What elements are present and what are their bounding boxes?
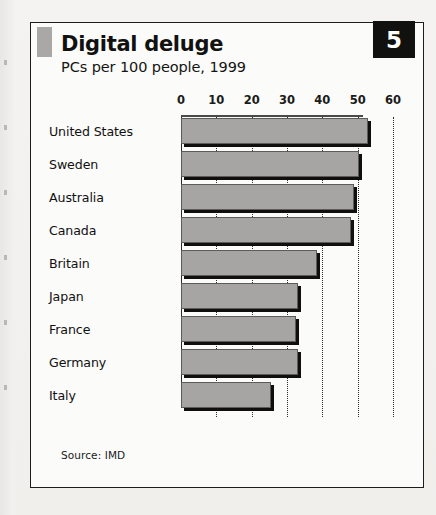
bar-row: Canada bbox=[31, 216, 425, 246]
x-tick-label: 50 bbox=[350, 93, 366, 107]
bar-category-label: Germany bbox=[49, 355, 106, 370]
bar-row: Britain bbox=[31, 249, 425, 279]
bar-row: Japan bbox=[31, 282, 425, 312]
bar-category-label: Canada bbox=[49, 223, 96, 238]
x-tick-label: 40 bbox=[314, 93, 330, 107]
bar-category-label: Britain bbox=[49, 256, 90, 271]
chart-source: Source: IMD bbox=[61, 449, 125, 461]
bar-category-label: Japan bbox=[49, 289, 84, 304]
edge-mark bbox=[4, 255, 7, 260]
edge-mark bbox=[4, 60, 7, 65]
bar-row: Germany bbox=[31, 348, 425, 378]
edge-mark bbox=[4, 125, 7, 130]
bar bbox=[181, 382, 271, 408]
bar-row: United States bbox=[31, 117, 425, 147]
bar bbox=[181, 283, 298, 309]
bar bbox=[181, 118, 368, 144]
bar bbox=[181, 250, 317, 276]
edge-mark bbox=[4, 320, 7, 325]
edge-mark bbox=[4, 190, 7, 195]
x-tick-label: 20 bbox=[244, 93, 260, 107]
bar-rows: United StatesSwedenAustraliaCanadaBritai… bbox=[31, 117, 425, 414]
bar bbox=[181, 349, 298, 375]
x-tick-label: 0 bbox=[177, 93, 185, 107]
bar-row: France bbox=[31, 315, 425, 345]
x-axis-tick-labels: 0102030405060 bbox=[31, 93, 425, 113]
bar-category-label: United States bbox=[49, 124, 133, 139]
x-tick-label: 30 bbox=[279, 93, 295, 107]
chart-title: Digital deluge bbox=[61, 32, 223, 56]
bar-row: Australia bbox=[31, 183, 425, 213]
bar bbox=[181, 151, 359, 177]
bar-category-label: Sweden bbox=[49, 157, 98, 172]
chart-subtitle: PCs per 100 people, 1999 bbox=[61, 59, 246, 75]
page-edge-marks bbox=[4, 60, 8, 490]
plot-area: 0102030405060 United StatesSwedenAustral… bbox=[31, 93, 425, 443]
bar bbox=[181, 316, 296, 342]
x-tick-label: 10 bbox=[208, 93, 224, 107]
accent-block bbox=[37, 27, 52, 57]
chart-number-badge: 5 bbox=[373, 21, 415, 58]
chart-panel: 5 Digital deluge PCs per 100 people, 199… bbox=[30, 22, 424, 488]
bar-row: Italy bbox=[31, 381, 425, 411]
bar-category-label: Australia bbox=[49, 190, 104, 205]
x-tick-label: 60 bbox=[385, 93, 401, 107]
bar bbox=[181, 184, 354, 210]
bar-category-label: Italy bbox=[49, 388, 76, 403]
bar bbox=[181, 217, 351, 243]
bar-category-label: France bbox=[49, 322, 90, 337]
bar-row: Sweden bbox=[31, 150, 425, 180]
edge-mark bbox=[4, 385, 7, 390]
